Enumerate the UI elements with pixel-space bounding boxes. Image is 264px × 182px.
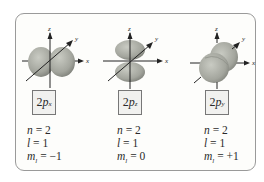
orbital-2px-graphic: [20, 13, 100, 93]
quantum-number-n: n = 2: [27, 124, 62, 137]
axis-label-y: y: [75, 35, 78, 43]
quantum-numbers: n = 2 l = 1 ml = −1: [27, 124, 62, 163]
orbital-column-2py: z y x 2py n = 2 l = 1 ml = +1: [188, 13, 264, 171]
quantum-numbers: n = 2 l = 1 ml = +1: [204, 124, 239, 163]
quantum-number-ml: ml = 0: [117, 150, 145, 163]
axis-label-z: z: [215, 25, 218, 33]
axis-label-z: z: [48, 25, 51, 33]
orbital-label-box: 2px: [32, 90, 56, 115]
orbital-column-2px: z y x 2px n = 2 l = 1 ml = −1: [20, 13, 100, 171]
quantum-number-l: l = 1: [27, 137, 62, 150]
quantum-number-l: l = 1: [117, 137, 145, 150]
axis-label-x: x: [252, 59, 255, 67]
axis-label-x: x: [86, 57, 89, 65]
label-subscript: z: [135, 100, 138, 108]
quantum-number-ml: ml = +1: [204, 150, 239, 163]
quantum-number-l: l = 1: [204, 137, 239, 150]
axis-label-y: y: [155, 35, 158, 43]
orbital-column-2pz: z y x 2pz n = 2 l = 1 ml = 0: [101, 13, 181, 171]
orbital-label-box: 2py: [205, 90, 229, 115]
orbital-label-box: 2pz: [118, 90, 142, 115]
quantum-number-n: n = 2: [117, 124, 145, 137]
quantum-number-ml: ml = −1: [27, 150, 62, 163]
quantum-numbers: n = 2 l = 1 ml = 0: [117, 124, 145, 163]
orbital-2pz-graphic: [101, 13, 181, 93]
axis-label-y: y: [242, 35, 245, 43]
axis-label-z: z: [128, 25, 131, 33]
label-subscript: y: [221, 100, 224, 108]
quantum-number-n: n = 2: [204, 124, 239, 137]
axis-label-x: x: [165, 57, 168, 65]
label-subscript: x: [48, 100, 51, 108]
orbital-2py-graphic: [188, 13, 264, 93]
